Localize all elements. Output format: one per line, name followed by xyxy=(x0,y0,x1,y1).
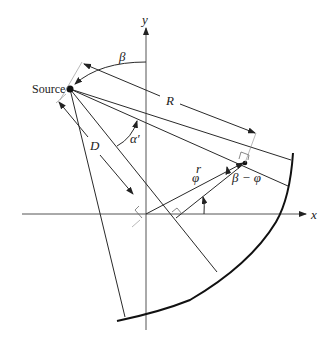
beta-label: β xyxy=(118,49,126,64)
y-axis-label: y xyxy=(140,12,148,27)
phi-label: φ xyxy=(192,170,199,185)
fan-beam-diagram: Source x y β R D α′ r φ β − φ xyxy=(0,0,335,348)
detector-arc xyxy=(117,153,293,321)
alpha-prime-label: α′ xyxy=(130,131,140,146)
D-dimension-arrow-upper xyxy=(59,102,88,137)
R-label: R xyxy=(165,93,174,108)
D-extension-origin xyxy=(132,220,140,227)
R-dimension-arrow-left xyxy=(84,64,160,96)
x-axis-label: x xyxy=(310,207,317,222)
beta-minus-phi-angle-arc xyxy=(226,167,227,175)
phi-angle-arc xyxy=(203,197,204,214)
source-label: Source xyxy=(32,82,65,96)
right-angle-marker-origin xyxy=(135,206,142,218)
fan-edge-ray-right xyxy=(70,89,291,160)
beta-minus-phi-label: β − φ xyxy=(231,170,261,185)
R-dimension-arrow-right xyxy=(180,104,255,133)
right-angle-marker-perp xyxy=(172,208,182,214)
D-label: D xyxy=(89,138,100,153)
beta-angle-arc xyxy=(75,62,146,84)
